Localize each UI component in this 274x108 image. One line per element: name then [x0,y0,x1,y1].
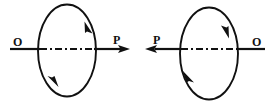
diagram-panel-right: P O [137,0,274,108]
diagram-panel-left: O P [0,0,137,108]
axis-label-origin-left: O [13,36,22,48]
figure-root: O P P O [0,0,274,108]
loop-circulation-arrowhead-down-icon [221,26,229,39]
axis-label-point-right: P [153,34,160,46]
diagram-left-svg [0,0,137,108]
current-loop-ellipse [38,5,96,97]
axis-label-point-left: P [113,34,120,46]
axis-label-origin-right: O [252,36,261,48]
current-loop-ellipse [180,8,238,100]
diagram-right-svg [137,0,274,108]
